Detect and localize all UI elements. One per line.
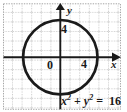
equation-label: x2 + y2 = 16 — [61, 95, 124, 107]
x-tick-label-4: 4 — [81, 58, 87, 70]
equation-equals: = — [93, 94, 106, 108]
x-axis-label: x — [111, 59, 117, 70]
origin-label: 0 — [47, 59, 53, 71]
circle-graph-figure: y x 0 4 4 x2 + y2 = 16 — [0, 0, 127, 112]
equation-plus: + — [71, 94, 84, 108]
y-tick-label-4: 4 — [61, 23, 67, 35]
y-axis-label: y — [67, 5, 72, 16]
equation-rhs: 16 — [106, 94, 124, 108]
